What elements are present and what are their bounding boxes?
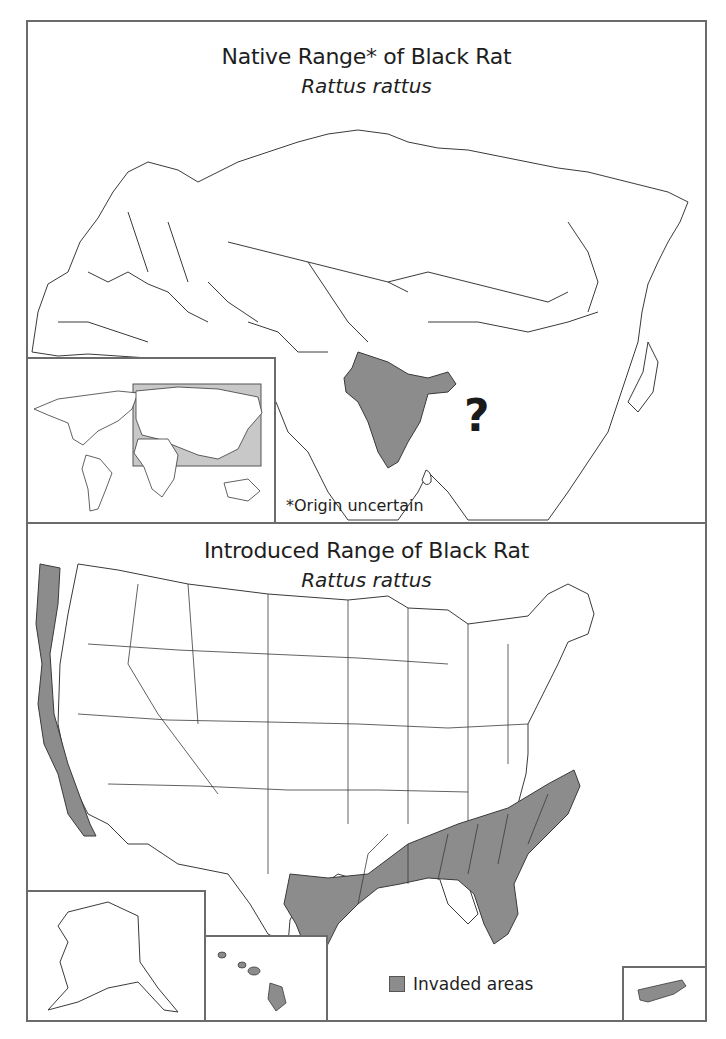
hawaii-invaded-islands <box>218 952 286 1011</box>
native-range-panel: Native Range* of Black Rat Rattus rattus <box>28 22 705 522</box>
origin-uncertain-question-mark: ? <box>464 394 490 438</box>
puerto-rico-inset <box>622 966 705 1020</box>
puerto-rico-invaded-area <box>638 980 686 1002</box>
world-locator-inset <box>28 357 276 522</box>
origin-uncertain-note: *Origin uncertain <box>286 496 424 515</box>
invaded-areas-swatch <box>389 976 405 992</box>
map-legend: Invaded areas <box>389 974 533 994</box>
introduced-range-panel: Introduced Range of Black Rat Rattus rat… <box>28 522 705 1020</box>
hawaii-inset <box>204 935 328 1020</box>
invaded-areas-label: Invaded areas <box>413 974 533 994</box>
world-locator-map <box>28 359 274 522</box>
hawaii-map <box>206 937 326 1020</box>
alaska-inset <box>28 890 206 1020</box>
puerto-rico-map <box>624 968 705 1020</box>
map-figure: Native Range* of Black Rat Rattus rattus <box>26 20 707 1022</box>
alaska-map <box>28 892 204 1020</box>
